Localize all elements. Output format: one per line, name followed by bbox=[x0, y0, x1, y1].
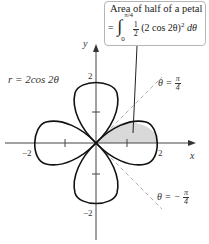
one-half-fraction: 1 2 bbox=[133, 21, 139, 38]
integral-group: ∫ π/4 0 bbox=[116, 18, 130, 40]
neg-pi-over-4-fraction: π 4 bbox=[183, 189, 189, 206]
lower-limit: 0 bbox=[121, 35, 125, 43]
area-callout-box: Area of half of a petal = ∫ π/4 0 1 2 (2… bbox=[104, 1, 206, 46]
differential: dθ bbox=[187, 22, 197, 33]
fraction-denominator: 2 bbox=[133, 30, 139, 38]
x-axis-label: x bbox=[190, 150, 194, 161]
y-axis-label: y bbox=[83, 38, 87, 49]
callout-pointer bbox=[133, 46, 137, 133]
y-pos2-label: 2 bbox=[88, 71, 93, 81]
curve-equation-label: r = 2cos 2θ bbox=[8, 73, 59, 85]
x-neg2-label: −2 bbox=[22, 148, 32, 158]
x-axis-arrow-icon bbox=[188, 140, 196, 146]
equals-sign: = bbox=[108, 22, 114, 33]
theta-pi-over-4-label: θ = π 4 bbox=[158, 75, 181, 92]
theta-eq-text: θ = bbox=[158, 77, 172, 88]
callout-equation: = ∫ π/4 0 1 2 (2 cos 2θ)2 dθ bbox=[108, 18, 197, 40]
pi-over-4-fraction: π 4 bbox=[175, 75, 181, 92]
y-neg2-label: −2 bbox=[83, 208, 93, 218]
theta-neg-pi-over-4-label: θ = − π 4 bbox=[157, 189, 189, 206]
upper-limit: π/4 bbox=[124, 11, 133, 19]
y-axis-arrow-icon bbox=[93, 44, 99, 52]
fraction-denominator: 4 bbox=[175, 84, 181, 92]
integral-sign: ∫ bbox=[117, 16, 122, 37]
exponent: 2 bbox=[181, 21, 185, 29]
theta-eq-text: θ = − bbox=[157, 191, 180, 202]
fraction-denominator: 4 bbox=[183, 198, 189, 206]
x-pos2-label: 2 bbox=[158, 148, 163, 158]
integrand: (2 cos 2θ) bbox=[141, 22, 181, 33]
